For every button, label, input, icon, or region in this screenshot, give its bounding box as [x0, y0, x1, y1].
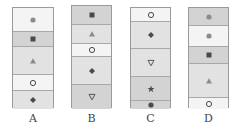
option-panel-b — [71, 5, 112, 108]
panel-segment — [72, 57, 111, 85]
panel-segment — [13, 8, 53, 32]
triangle-down-ring-icon — [88, 93, 96, 101]
panel-segment — [131, 22, 170, 49]
panel-segment — [131, 77, 170, 101]
panel-segment — [189, 64, 228, 98]
diamond-filled-icon — [29, 96, 37, 104]
panel-segment — [131, 101, 170, 109]
option-panel-a — [12, 7, 54, 108]
diamond-filled-icon — [147, 31, 155, 39]
panel-segment — [72, 25, 111, 44]
triangle-down-ring-icon — [147, 59, 155, 67]
square-filled-icon — [205, 51, 213, 59]
triangle-up-gray-icon — [205, 77, 213, 85]
panel-segment — [131, 8, 170, 22]
panel-segment — [13, 47, 53, 75]
star-filled-icon — [147, 85, 155, 93]
circle-filled-gray-icon — [29, 16, 37, 24]
panel-segment — [189, 98, 228, 109]
panel-segment — [13, 75, 53, 91]
option-label: D — [188, 112, 229, 125]
panel-segment — [72, 44, 111, 57]
option-label: C — [130, 112, 171, 125]
panel-segment — [72, 6, 111, 25]
circle-filled-gray-icon — [205, 13, 213, 21]
circle-ring-icon — [29, 79, 37, 87]
panel-segment — [131, 49, 170, 77]
square-filled-icon — [29, 35, 37, 43]
diamond-filled-icon — [88, 67, 96, 75]
option-label: A — [12, 112, 54, 125]
circle-ring-icon — [205, 100, 213, 108]
panel-segment — [13, 91, 53, 109]
triangle-up-gray-icon — [29, 57, 37, 65]
panel-segment — [189, 47, 228, 64]
panel-segment — [72, 85, 111, 109]
circle-filled-dark-icon — [147, 101, 155, 109]
square-filled-icon — [88, 11, 96, 19]
option-panel-d — [188, 7, 229, 108]
option-label: B — [71, 112, 112, 125]
circle-ring-icon — [147, 11, 155, 19]
panel-segment — [13, 32, 53, 47]
panel-segment — [189, 8, 228, 26]
panel-segment — [189, 26, 228, 47]
triangle-up-gray-icon — [88, 30, 96, 38]
option-panel-c — [130, 7, 171, 108]
circle-filled-gray-icon — [205, 32, 213, 40]
circle-ring-icon — [88, 46, 96, 54]
